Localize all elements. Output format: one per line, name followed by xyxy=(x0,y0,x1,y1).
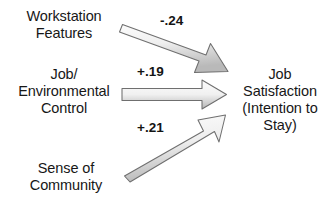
path-coefficient-community: +.21 xyxy=(137,120,164,135)
path-arrow-control-to-satisfaction xyxy=(122,80,227,109)
node-label-sense-of-community: Sense of Community xyxy=(6,160,126,194)
path-coefficient-control: +.19 xyxy=(137,64,164,79)
path-coefficient-workstation: -.24 xyxy=(160,13,183,28)
path-diagram: Workstation Features Job/ Environmental … xyxy=(0,0,331,210)
path-arrow-workstation-to-satisfaction xyxy=(120,25,229,73)
node-label-job-environmental-control: Job/ Environmental Control xyxy=(0,66,128,117)
node-label-job-satisfaction: Job Satisfaction (Intention to Stay) xyxy=(230,66,330,134)
node-label-workstation-features: Workstation Features xyxy=(2,8,126,42)
